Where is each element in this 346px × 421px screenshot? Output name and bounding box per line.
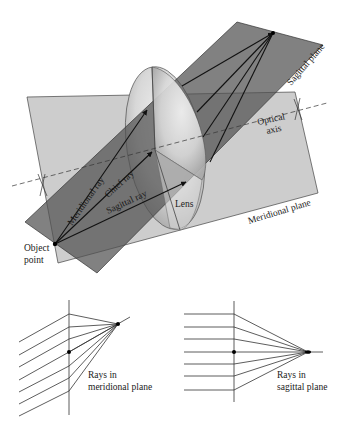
image-point	[271, 31, 275, 35]
object-point-label-2: point	[24, 255, 44, 265]
sagittal-focus-dot	[305, 350, 311, 354]
sagittal-center-dot	[232, 350, 236, 354]
optics-diagram: Sagittal plane Meridional plane Optical …	[0, 0, 346, 421]
object-point	[53, 242, 57, 246]
meridional-center-dot	[67, 350, 71, 354]
sagittal-caption-2: sagittal plane	[277, 382, 327, 392]
meridional-ray-diagram	[19, 300, 130, 416]
sagittal-caption-1: Rays in	[277, 370, 306, 380]
object-point-label-1: Object	[24, 243, 50, 253]
meridional-caption-1: Rays in	[88, 370, 117, 380]
lens-label: Lens	[175, 199, 194, 209]
meridional-focus-dot	[116, 322, 120, 326]
meridional-caption-2: meridional plane	[88, 382, 152, 392]
